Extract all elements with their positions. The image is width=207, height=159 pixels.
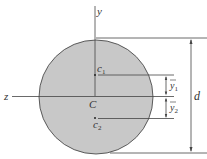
c1-point bbox=[94, 74, 96, 76]
diameter-label: d bbox=[194, 89, 201, 103]
d-arrow-bottom bbox=[190, 147, 193, 152]
ybar1-arrow-bottom bbox=[165, 92, 167, 96]
y-axis-label: y bbox=[96, 5, 102, 17]
ybar1-label: y1 bbox=[169, 80, 178, 93]
centroid-label: C bbox=[89, 98, 97, 110]
ybar2-label: y2 bbox=[169, 102, 178, 115]
ybar1-arrow-top bbox=[165, 76, 167, 80]
z-axis-label: z bbox=[3, 90, 9, 102]
d-arrow-top bbox=[190, 39, 193, 44]
cross-section-diagram: y z C c1 c2 y1 y2 d bbox=[0, 0, 207, 159]
circular-section bbox=[39, 40, 153, 154]
ybar2-arrow-bottom bbox=[165, 114, 167, 118]
ybar2-arrow-top bbox=[165, 98, 167, 102]
